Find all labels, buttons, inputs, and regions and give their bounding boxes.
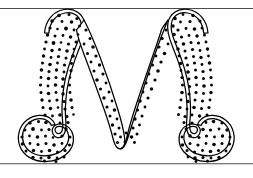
drawing-background [0, 0, 253, 178]
illuminated-letter-figure: Illuminated letter M A hand-drawn capita… [0, 0, 253, 178]
letter-drawing-canvas: Illuminated letter M A hand-drawn capita… [0, 0, 253, 178]
